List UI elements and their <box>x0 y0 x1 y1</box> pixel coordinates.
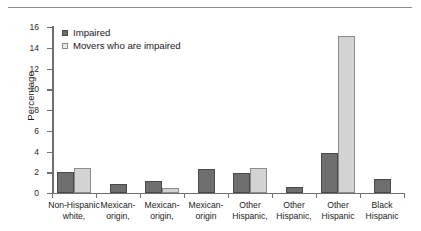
y-tick-label: 2 <box>34 168 39 177</box>
bar-impaired <box>57 172 74 193</box>
y-tick <box>47 172 52 173</box>
x-tick <box>96 193 97 198</box>
top-divider-rule <box>8 7 412 8</box>
y-tick <box>47 152 52 153</box>
y-tick-label: 0 <box>34 189 39 198</box>
legend-label-movers: Movers who are impaired <box>73 41 181 51</box>
y-tick-label: 12 <box>30 64 39 73</box>
y-tick <box>47 48 52 49</box>
y-tick-label: 10 <box>30 85 39 94</box>
bar-movers <box>162 188 179 193</box>
y-tick <box>47 69 52 70</box>
x-tick <box>228 193 229 198</box>
x-tick <box>272 193 273 198</box>
x-tick <box>404 193 405 198</box>
y-tick-label: 8 <box>34 106 39 115</box>
legend-item-impaired: Impaired <box>62 26 181 39</box>
y-tick-label: 4 <box>34 147 39 156</box>
x-tick <box>184 193 185 198</box>
bar-impaired <box>286 187 303 193</box>
y-tick <box>47 27 52 28</box>
legend-swatch-icon-movers <box>62 43 68 49</box>
x-axis-labels: Non-Hispanicwhite,Mexican-origin,Mexican… <box>52 200 404 231</box>
y-tick <box>47 131 52 132</box>
y-tick <box>47 89 52 90</box>
x-tick <box>52 193 53 198</box>
y-tick-label: 6 <box>34 127 39 136</box>
y-tick-label: 14 <box>30 44 39 53</box>
x-tick <box>140 193 141 198</box>
legend-label-impaired: Impaired <box>73 28 110 38</box>
x-tick-label: BlackHispanic <box>354 200 410 222</box>
legend-item-movers: Movers who are impaired <box>62 39 181 52</box>
legend-swatch-icon-impaired <box>62 30 68 36</box>
bar-impaired <box>321 153 338 193</box>
chart-figure: Percentage 0246810121416 Non-Hispanicwhi… <box>0 0 421 231</box>
bar-impaired <box>145 181 162 193</box>
bar-movers <box>250 168 267 193</box>
bar-impaired <box>110 184 127 193</box>
x-tick <box>316 193 317 198</box>
bar-impaired <box>198 169 215 193</box>
bar-impaired <box>233 173 250 193</box>
bar-impaired <box>374 179 391 193</box>
bar-movers <box>74 168 91 193</box>
y-tick <box>47 110 52 111</box>
x-tick <box>360 193 361 198</box>
y-tick-label: 16 <box>30 23 39 32</box>
bar-movers <box>338 36 355 193</box>
chart-legend: Impaired Movers who are impaired <box>62 26 181 52</box>
